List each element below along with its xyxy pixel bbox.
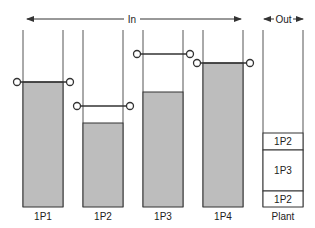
out-label: Out — [275, 14, 291, 25]
level-marker-icon — [14, 79, 21, 86]
column-label: 1P3 — [154, 211, 172, 222]
column-plant: 1P2 1P3 1P2 Plant — [263, 30, 303, 222]
column-1p1: 1P1 — [14, 30, 74, 222]
column-1p3: 1P3 — [134, 30, 194, 222]
column-1p4: 1P4 — [194, 30, 254, 222]
column-label: Plant — [272, 211, 295, 222]
reservoir-diagram: In Out 1P1 1P2 1P3 — [0, 0, 315, 228]
level-marker-icon — [187, 51, 194, 58]
plant-segment-label: 1P2 — [274, 136, 292, 147]
level-marker-icon — [247, 60, 254, 67]
out-arrow: Out — [264, 14, 303, 25]
column-label: 1P2 — [94, 211, 112, 222]
plant-segment-label: 1P3 — [274, 165, 292, 176]
level-marker-icon — [194, 60, 201, 67]
in-label: In — [128, 14, 136, 25]
level-marker-icon — [127, 103, 134, 110]
plant-segment-label: 1P2 — [274, 194, 292, 205]
level-marker-icon — [74, 103, 81, 110]
column-1p2: 1P2 — [74, 30, 134, 222]
column-label: 1P1 — [34, 211, 52, 222]
level-marker-icon — [67, 79, 74, 86]
level-marker-icon — [134, 51, 141, 58]
in-arrow: In — [27, 14, 241, 25]
column-label: 1P4 — [214, 211, 232, 222]
